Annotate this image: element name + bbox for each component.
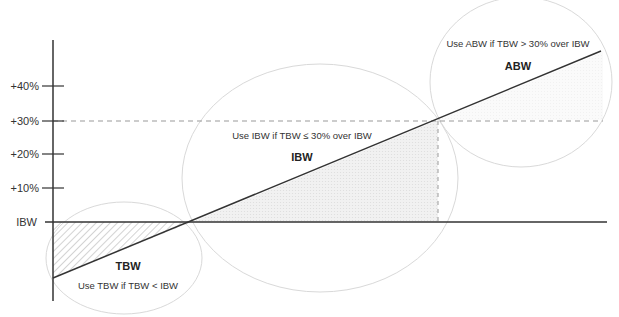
tbw-region-rule: Use TBW if TBW < IBW — [78, 280, 178, 291]
tick-label-20: +20% — [11, 148, 40, 160]
ibw-region-title: IBW — [291, 151, 313, 163]
tick-label-40: +40% — [11, 80, 40, 92]
tbw-trend-line — [53, 51, 601, 278]
tick-label-10: +10% — [11, 182, 40, 194]
ibw-region-rule: Use IBW if TBW ≤ 30% over IBW — [232, 130, 372, 141]
tick-label-ibw: IBW — [16, 216, 37, 228]
abw-region-title: ABW — [505, 60, 532, 72]
tbw-region-title: TBW — [115, 260, 141, 272]
abw-region-rule: Use ABW if TBW > 30% over IBW — [446, 38, 589, 49]
weight-selection-diagram: +40% +30% +20% +10% IBW TBW Use TBW if T… — [0, 0, 619, 317]
tick-label-30: +30% — [11, 115, 40, 127]
